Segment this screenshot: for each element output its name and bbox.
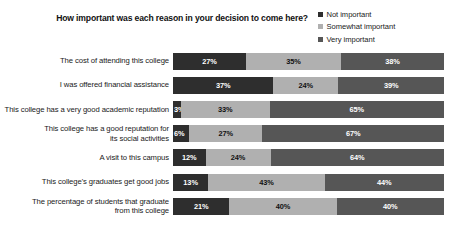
chart-legend: Not importantSomewhat importantVery impo…	[318, 9, 395, 44]
legend-swatch-icon	[318, 37, 323, 42]
row-category-label: The cost of attending this college	[0, 56, 173, 65]
row-category-label-line: This college's graduates get good jobs	[0, 177, 169, 186]
chart-row: The percentage of students that graduate…	[0, 194, 458, 218]
chart-row: The cost of attending this college27%35%…	[0, 49, 458, 73]
bar-segment-not_important[interactable]: 21%	[173, 198, 229, 215]
bar-segment-very_important[interactable]: 65%	[270, 101, 444, 118]
bar-segment-very_important[interactable]: 44%	[325, 174, 444, 191]
bar-segment-value: 65%	[350, 105, 365, 114]
legend-item-label: Very important	[327, 35, 375, 44]
bar-segment-somewhat_important[interactable]: 24%	[206, 149, 271, 166]
chart-title: How important was each reason in your de…	[48, 13, 316, 23]
legend-swatch-icon	[318, 24, 323, 29]
chart-row: This college's graduates get good jobs13…	[0, 170, 458, 194]
legend-item-somewhat_important[interactable]: Somewhat important	[318, 22, 395, 32]
row-category-label: I was offered financial assistance	[0, 80, 173, 89]
bar-segment-somewhat_important[interactable]: 35%	[246, 53, 341, 70]
bar-segment-somewhat_important[interactable]: 40%	[229, 198, 336, 215]
bar-segment-value: 27%	[219, 129, 234, 138]
bar-segment-very_important[interactable]: 40%	[337, 198, 444, 215]
stacked-bar: 21%40%40%	[173, 198, 444, 215]
bar-segment-very_important[interactable]: 67%	[262, 125, 444, 142]
row-category-label: The percentage of students that graduate…	[0, 197, 173, 216]
row-category-label-line: This college has a very good academic re…	[0, 105, 169, 114]
chart-row: This college has a good reputation forit…	[0, 122, 458, 146]
plot-area: The cost of attending this college27%35%…	[0, 46, 458, 228]
chart-header: How important was each reason in your de…	[0, 0, 458, 46]
bar-segment-value: 43%	[259, 178, 274, 187]
bar-segment-value: 39%	[384, 81, 399, 90]
bar-segment-value: 40%	[383, 202, 398, 211]
legend-item-not_important[interactable]: Not important	[318, 9, 395, 19]
bar-segment-value: 35%	[286, 57, 301, 66]
bar-segment-very_important[interactable]: 39%	[338, 77, 444, 94]
bar-segment-not_important[interactable]: 3%	[173, 101, 181, 118]
row-category-label: This college has a very good academic re…	[0, 105, 173, 114]
bar-segment-not_important[interactable]: 12%	[173, 149, 206, 166]
stacked-bar: 27%35%38%	[173, 53, 444, 70]
bar-segment-value: 38%	[385, 57, 400, 66]
stacked-bar: 13%43%44%	[173, 174, 444, 191]
bar-segment-value: 12%	[182, 153, 197, 162]
bar-segment-very_important[interactable]: 64%	[271, 149, 444, 166]
chart-container: How important was each reason in your de…	[0, 0, 458, 228]
bar-segment-value: 3%	[174, 105, 181, 114]
legend-item-label: Somewhat important	[327, 22, 396, 31]
bar-segment-value: 40%	[276, 202, 291, 211]
row-category-label-line: from this college	[0, 206, 169, 215]
chart-row: This college has a very good academic re…	[0, 97, 458, 121]
legend-item-very_important[interactable]: Very important	[318, 34, 395, 44]
bar-segment-value: 24%	[231, 153, 246, 162]
bar-segment-value: 27%	[202, 57, 217, 66]
bar-segment-somewhat_important[interactable]: 33%	[181, 101, 270, 118]
bar-segment-not_important[interactable]: 27%	[173, 53, 246, 70]
bar-segment-value: 37%	[216, 81, 231, 90]
stacked-bar: 3%33%65%	[173, 101, 444, 118]
bar-segment-not_important[interactable]: 13%	[173, 174, 208, 191]
bar-segment-not_important[interactable]: 6%	[173, 125, 189, 142]
legend-swatch-icon	[318, 12, 323, 17]
stacked-bar: 6%27%67%	[173, 125, 444, 142]
bar-segment-value: 64%	[350, 153, 365, 162]
row-category-label-line: its social activities	[0, 134, 169, 143]
chart-row: A visit to this campus12%24%64%	[0, 146, 458, 170]
bar-segment-value: 13%	[183, 178, 198, 187]
row-category-label-line: The percentage of students that graduate	[0, 197, 169, 206]
bar-segment-somewhat_important[interactable]: 27%	[189, 125, 262, 142]
bar-segment-very_important[interactable]: 38%	[341, 53, 444, 70]
row-category-label: A visit to this campus	[0, 153, 173, 162]
chart-row: I was offered financial assistance37%24%…	[0, 73, 458, 97]
bar-segment-value: 33%	[218, 105, 233, 114]
bar-segment-value: 67%	[346, 129, 361, 138]
bar-segment-somewhat_important[interactable]: 24%	[273, 77, 338, 94]
row-category-label: This college's graduates get good jobs	[0, 177, 173, 186]
row-category-label: This college has a good reputation forit…	[0, 124, 173, 143]
bar-segment-value: 44%	[377, 178, 392, 187]
bar-segment-somewhat_important[interactable]: 43%	[208, 174, 325, 191]
row-category-label-line: A visit to this campus	[0, 153, 169, 162]
bar-segment-value: 21%	[194, 202, 209, 211]
bar-segment-not_important[interactable]: 37%	[173, 77, 273, 94]
legend-item-label: Not important	[327, 10, 372, 19]
row-category-label-line: The cost of attending this college	[0, 56, 169, 65]
row-category-label-line: This college has a good reputation for	[0, 124, 169, 133]
bar-segment-value: 6%	[174, 129, 184, 138]
bar-segment-value: 24%	[299, 81, 314, 90]
stacked-bar: 37%24%39%	[173, 77, 444, 94]
stacked-bar: 12%24%64%	[173, 149, 444, 166]
row-category-label-line: I was offered financial assistance	[0, 80, 169, 89]
